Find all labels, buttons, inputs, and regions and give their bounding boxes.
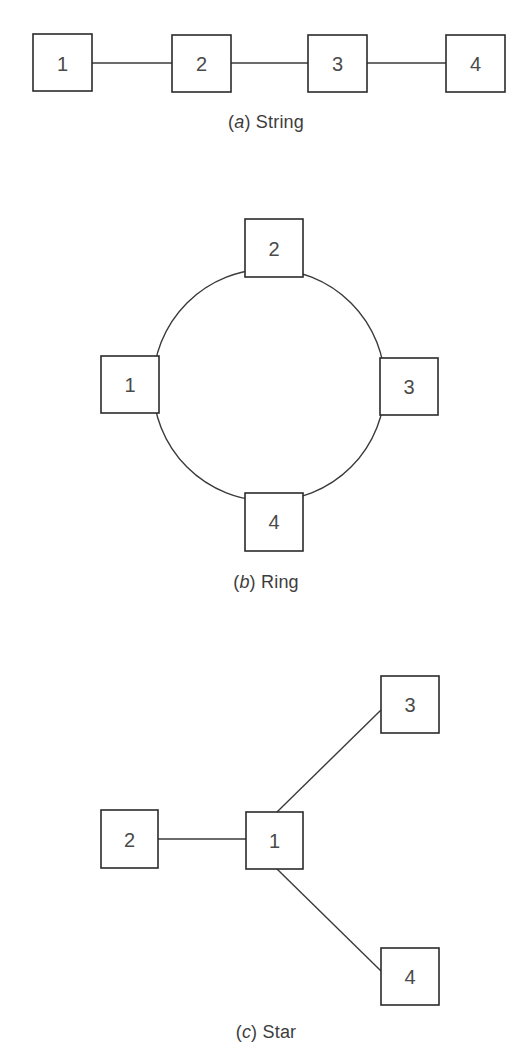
node-2: 2 — [101, 810, 158, 868]
node-4: 4 — [381, 948, 439, 1005]
caption-paren-close: ) — [251, 1022, 257, 1042]
caption-star: (c) Star — [0, 1022, 532, 1043]
node-1-label: 1 — [269, 830, 280, 852]
caption-paren-close: ) — [250, 572, 256, 592]
caption-title: Star — [263, 1022, 297, 1042]
node-4: 4 — [245, 493, 303, 551]
node-3: 3 — [380, 358, 438, 415]
node-3-label: 3 — [403, 376, 414, 398]
edge-1-3 — [277, 710, 381, 812]
caption-letter: a — [234, 112, 244, 132]
node-3-label: 3 — [404, 694, 415, 716]
ring-edge-circle — [153, 269, 385, 501]
node-1-label: 1 — [124, 374, 135, 396]
node-3: 3 — [308, 35, 367, 92]
caption-letter: c — [242, 1022, 251, 1042]
caption-paren-close: ) — [244, 112, 250, 132]
node-1: 1 — [246, 812, 303, 869]
node-4-label: 4 — [268, 511, 279, 533]
figure-string: 1 2 3 4 (a) String — [0, 0, 532, 160]
node-3-label: 3 — [332, 53, 343, 75]
node-1-label: 1 — [57, 53, 68, 75]
caption-string: (a) String — [0, 112, 532, 133]
star-nodes: 1 2 3 4 — [101, 676, 439, 1005]
caption-ring: (b) Ring — [0, 572, 532, 593]
caption-title: String — [256, 112, 304, 132]
node-2: 2 — [172, 35, 231, 92]
node-1: 1 — [33, 34, 92, 91]
figure-ring: 1 2 3 4 (b) Ring — [0, 190, 532, 610]
node-4: 4 — [446, 35, 505, 92]
node-4-label: 4 — [404, 966, 415, 988]
caption-letter: b — [239, 572, 249, 592]
caption-title: Ring — [261, 572, 299, 592]
node-3: 3 — [381, 676, 439, 733]
node-1: 1 — [101, 356, 159, 413]
figure-star: 1 2 3 4 (c) Star — [0, 640, 532, 1062]
node-2-label: 2 — [268, 238, 279, 260]
star-topology-diagram: 1 2 3 4 — [0, 640, 532, 1020]
node-2-label: 2 — [124, 829, 135, 851]
node-2-label: 2 — [196, 53, 207, 75]
string-topology-diagram: 1 2 3 4 — [0, 0, 532, 110]
ring-nodes: 1 2 3 4 — [101, 219, 438, 551]
node-4-label: 4 — [470, 53, 481, 75]
edge-1-4 — [277, 869, 381, 971]
ring-edges — [153, 269, 385, 501]
node-2: 2 — [245, 219, 303, 277]
ring-topology-diagram: 1 2 3 4 — [0, 190, 532, 570]
